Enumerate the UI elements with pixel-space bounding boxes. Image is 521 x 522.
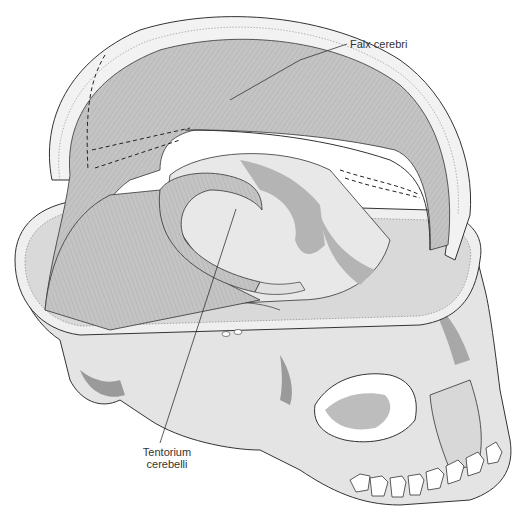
skull-illustration <box>0 0 521 522</box>
tentorium-label-line1: Tentorium <box>130 446 204 458</box>
tentorium-cerebelli-label: Tentorium cerebelli <box>130 446 204 470</box>
anatomy-figure: Falx cerebri Tentorium cerebelli <box>0 0 521 522</box>
falx-cerebri-label: Falx cerebri <box>350 38 407 50</box>
tentorium-label-line2: cerebelli <box>130 458 204 470</box>
